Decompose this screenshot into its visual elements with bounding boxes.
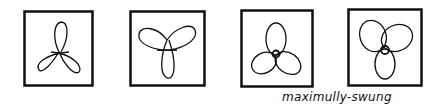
trefoil-figure-1 xyxy=(23,10,95,88)
panel-4 xyxy=(347,8,424,88)
panel-2 xyxy=(129,10,207,88)
trefoil-figure-3 xyxy=(240,9,315,89)
caption-maximally-swung: maximully-swung xyxy=(282,90,392,104)
panel-1 xyxy=(23,10,95,88)
panel-3 xyxy=(240,9,315,89)
trefoil-figure-4 xyxy=(347,8,424,88)
trefoil-figure-2 xyxy=(129,10,207,88)
